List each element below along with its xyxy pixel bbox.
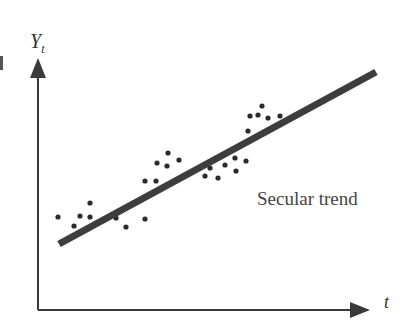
data-point xyxy=(247,113,252,118)
data-point xyxy=(265,115,270,120)
scatter-chart xyxy=(0,0,410,328)
data-point xyxy=(153,178,158,183)
data-points xyxy=(55,103,282,229)
data-point xyxy=(233,168,238,173)
data-point xyxy=(164,163,169,168)
data-point xyxy=(142,216,147,221)
data-point xyxy=(165,150,170,155)
data-point xyxy=(232,155,237,160)
data-point xyxy=(176,157,181,162)
data-point xyxy=(154,160,159,165)
data-point xyxy=(87,214,92,219)
x-axis-label: t xyxy=(384,292,389,313)
data-point xyxy=(245,128,250,133)
data-point xyxy=(255,112,260,117)
data-point xyxy=(87,200,92,205)
data-point xyxy=(277,113,282,118)
data-point xyxy=(77,213,82,218)
data-point xyxy=(202,173,207,178)
data-point xyxy=(55,214,60,219)
data-point xyxy=(259,103,264,108)
secular-trend-line xyxy=(59,72,376,244)
data-point xyxy=(215,175,220,180)
data-point xyxy=(142,178,147,183)
data-point xyxy=(222,162,227,167)
data-point xyxy=(243,158,248,163)
data-point xyxy=(123,224,128,229)
y-axis-label: Yt xyxy=(30,30,44,57)
data-point xyxy=(71,223,76,228)
trend-annotation: Secular trend xyxy=(257,188,358,210)
